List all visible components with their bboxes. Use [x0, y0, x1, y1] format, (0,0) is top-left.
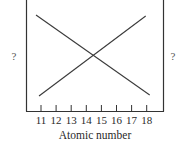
- x-tick-label: 17: [126, 114, 138, 126]
- x-tick-label: 15: [96, 114, 108, 126]
- x-tick-label: 11: [36, 114, 47, 126]
- x-tick-labels: 1112131415161718: [36, 114, 153, 126]
- x-tick-label: 16: [111, 114, 123, 126]
- x-tick-label: 12: [51, 114, 62, 126]
- x-tick-label: 14: [81, 114, 93, 126]
- x-axis-title: Atomic number: [59, 129, 132, 141]
- x-tick-label: 18: [141, 114, 153, 126]
- x-ticks: [41, 105, 147, 112]
- right-axis-label: ?: [171, 50, 176, 62]
- chart: 1112131415161718 ? ? Atomic number: [0, 0, 180, 147]
- left-axis-label: ?: [12, 50, 17, 62]
- x-tick-label: 13: [66, 114, 78, 126]
